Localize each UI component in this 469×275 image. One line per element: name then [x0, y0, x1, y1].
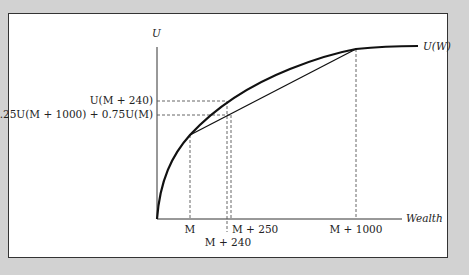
x-tick-m1000: M + 1000 — [330, 223, 383, 235]
y-axis-label: U — [152, 27, 162, 39]
x-tick-m250: M + 250 — [232, 223, 278, 235]
curve-label: U(W) — [423, 40, 451, 52]
x-tick-m: M — [185, 223, 196, 235]
x-axis-label: Wealth — [406, 212, 443, 224]
y-tick-u-m240: U(M + 240) — [90, 94, 153, 106]
y-tick-expected: 0.25U(M + 1000) + 0.75U(M) — [0, 108, 153, 120]
chord-line — [190, 49, 356, 135]
utility-diagram: U Wealth U(W) U(M + 240) 0.25U(M + 1000)… — [0, 0, 469, 275]
x-tick-m240: M + 240 — [205, 236, 251, 248]
